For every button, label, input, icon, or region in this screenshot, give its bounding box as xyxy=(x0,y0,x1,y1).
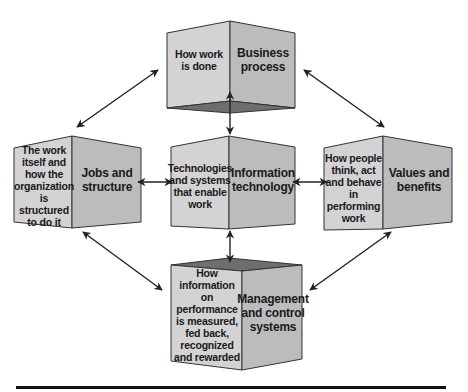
arrow-bp-vb xyxy=(304,70,384,127)
arrow-js-mc xyxy=(83,232,162,290)
information-technology-title: Information technology xyxy=(232,160,294,200)
information-technology-description: Technologies and systems that enable wor… xyxy=(172,150,228,222)
business-process-title: Business process xyxy=(234,40,292,80)
jobs-and-structure-title: Jobs and structure xyxy=(76,160,138,200)
bottom-rule xyxy=(16,386,446,389)
values-and-benefits-description: How people think, act and behave in perf… xyxy=(325,150,382,226)
management-and-control-systems-description: How information on performance is measur… xyxy=(173,272,241,358)
arrow-bp-js xyxy=(77,70,158,127)
business-process-description: How work is done xyxy=(170,40,228,80)
values-and-benefits-title: Values and benefits xyxy=(388,160,450,200)
management-and-control-systems-title: Management and control systems xyxy=(244,288,302,338)
jobs-and-structure-description: The work itself and how the organization… xyxy=(16,150,72,222)
arrow-vb-mc xyxy=(310,232,391,290)
